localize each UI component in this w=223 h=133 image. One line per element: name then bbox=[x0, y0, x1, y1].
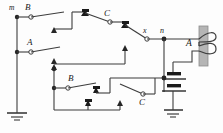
battery-symbol bbox=[162, 62, 186, 110]
label-switch-c-bottom: C bbox=[139, 97, 146, 107]
node-lower-right bbox=[162, 76, 167, 81]
lower-left-stub bbox=[51, 64, 57, 110]
label-switch-c-top: C bbox=[104, 8, 111, 18]
label-terminal-x: x bbox=[142, 26, 147, 35]
switch-b-bottom[interactable] bbox=[54, 83, 96, 90]
middle-horizontal-wire bbox=[51, 45, 128, 64]
lower-middle-stepped-wire bbox=[93, 78, 164, 93]
ground-symbol-left bbox=[7, 113, 27, 120]
circuit-schematic-svg: B m C bbox=[0, 0, 223, 133]
label-terminal-n: n bbox=[160, 26, 164, 35]
terminal-arrow-1 bbox=[51, 27, 57, 33]
label-switch-a-left: A bbox=[26, 37, 33, 47]
label-terminal-m: m bbox=[9, 3, 15, 12]
label-switch-b-bottom: B bbox=[68, 73, 74, 83]
bottom-return-wire bbox=[54, 99, 123, 110]
label-switch-b-top: B bbox=[25, 2, 31, 12]
label-coil-a: A bbox=[185, 38, 192, 48]
switch-c-bottom[interactable] bbox=[120, 78, 155, 96]
switch-b-top[interactable] bbox=[15, 12, 64, 19]
relay-coil-a bbox=[173, 33, 216, 62]
top-middle-stepped-wire bbox=[54, 12, 85, 33]
ground-symbol-right bbox=[164, 110, 183, 117]
switch-a-left[interactable] bbox=[15, 47, 60, 54]
circuit-diagram: B m C bbox=[0, 0, 223, 133]
